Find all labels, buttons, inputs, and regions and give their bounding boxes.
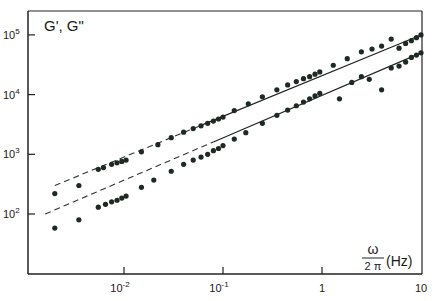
data-point: [169, 169, 174, 174]
data-point: [414, 35, 419, 40]
data-point: [139, 149, 144, 154]
data-point: [232, 136, 237, 141]
fit-lines: [45, 35, 421, 214]
data-point: [139, 185, 144, 190]
data-point: [114, 160, 119, 165]
data-point: [274, 113, 279, 118]
data-point: [285, 82, 290, 87]
data-point: [243, 130, 248, 135]
data-point: [211, 118, 216, 123]
data-point: [205, 121, 210, 126]
data-point: [301, 99, 306, 104]
fit-line-dashed: [45, 142, 213, 214]
fit-line-dashed: [55, 125, 201, 185]
data-point: [109, 199, 114, 204]
x-tick-label: 10-1: [209, 280, 229, 294]
data-point: [396, 46, 401, 51]
y-axis-label: G', G": [44, 17, 84, 34]
data-point: [211, 148, 216, 153]
data-point: [285, 108, 290, 113]
data-point: [260, 94, 265, 99]
data-point: [379, 43, 384, 48]
data-point: [246, 101, 251, 106]
data-point: [232, 108, 237, 113]
y-tick-label: 105: [3, 27, 20, 41]
data-point: [274, 87, 279, 92]
data-point: [414, 52, 419, 57]
data-point: [307, 74, 312, 79]
data-point: [307, 96, 312, 101]
data-point: [403, 60, 408, 65]
data-point: [317, 69, 322, 74]
data-point: [409, 38, 414, 43]
y-tick-label: 103: [3, 146, 20, 160]
data-point: [367, 77, 372, 82]
data-point: [369, 46, 374, 51]
data-point: [312, 72, 317, 77]
data-point: [191, 126, 196, 131]
data-point: [349, 80, 354, 85]
data-point: [191, 157, 196, 162]
data-point: [359, 49, 364, 54]
data-point: [345, 56, 350, 61]
data-point: [216, 146, 221, 151]
data-point: [379, 87, 384, 92]
data-point: [101, 165, 106, 170]
data-point: [418, 32, 423, 37]
data-point: [301, 76, 306, 81]
data-point: [198, 154, 203, 159]
data-point: [96, 205, 101, 210]
data-point: [109, 162, 114, 167]
data-point: [181, 162, 186, 167]
data-point: [409, 55, 414, 60]
y-tick-label: 104: [3, 87, 20, 101]
data-point: [359, 74, 364, 79]
data-point: [76, 183, 81, 188]
data-point: [403, 41, 408, 46]
data-point: [52, 191, 57, 196]
data-point: [220, 143, 225, 148]
data-point: [114, 198, 119, 203]
x-label-numerator: ω: [368, 241, 379, 257]
data-point: [389, 37, 394, 42]
data-point: [155, 142, 160, 147]
data-point: [151, 177, 156, 182]
x-axis-label: ω 2 π (Hz): [362, 241, 412, 272]
data-point: [123, 193, 128, 198]
data-point: [418, 50, 423, 55]
data-point: [396, 64, 401, 69]
x-tick-label: 1: [319, 282, 325, 294]
data-point: [96, 167, 101, 172]
data-point: [216, 116, 221, 121]
data-point: [198, 123, 203, 128]
data-point: [205, 152, 210, 157]
x-label-unit: (Hz): [386, 253, 412, 269]
x-tick-label: 10: [415, 282, 427, 294]
data-point: [317, 91, 322, 96]
data-point: [331, 63, 336, 68]
y-axis-ticks: 102103104105: [3, 27, 35, 220]
data-point: [123, 157, 128, 162]
x-label-denominator: 2 π: [365, 260, 382, 272]
data-point: [260, 121, 265, 126]
data-point: [220, 114, 225, 119]
data-point: [294, 79, 299, 84]
data-point: [389, 65, 394, 70]
data-point: [169, 135, 174, 140]
data-point: [181, 130, 186, 135]
x-tick-label: 10-2: [110, 280, 130, 294]
data-point: [337, 96, 342, 101]
loglog-chart: 102103104105 10-210-1110 G', G" ω 2 π (H…: [0, 0, 434, 301]
data-point: [312, 93, 317, 98]
data-point: [294, 103, 299, 108]
data-point: [52, 226, 57, 231]
data-point: [76, 217, 81, 222]
data-point: [103, 202, 108, 207]
y-tick-label: 102: [3, 206, 20, 220]
